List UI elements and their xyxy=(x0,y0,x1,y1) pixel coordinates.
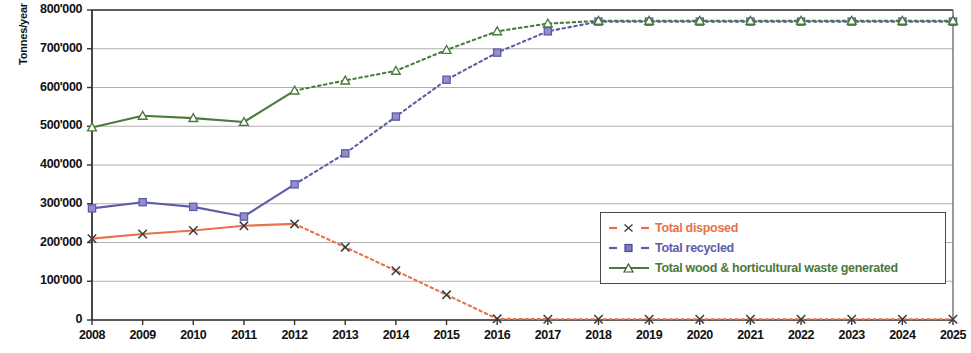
data-point-marker xyxy=(291,181,298,188)
legend-key-total-disposed xyxy=(607,221,651,235)
data-point-marker xyxy=(342,150,349,157)
chart-legend: Total disposed Total recycled Total wood… xyxy=(600,212,946,284)
data-point-marker xyxy=(190,203,197,210)
data-point-marker xyxy=(442,291,450,299)
legend-item-total-recycled[interactable]: Total recycled xyxy=(607,238,939,258)
legend-key-total-generated xyxy=(607,261,651,275)
data-point-marker xyxy=(391,66,400,74)
legend-item-total-generated[interactable]: Total wood & horticultural waste generat… xyxy=(607,258,939,278)
data-point-marker xyxy=(392,267,400,275)
data-point-marker xyxy=(341,243,349,251)
data-point-marker xyxy=(443,76,450,83)
data-point-marker xyxy=(392,113,399,120)
legend-label-total-generated: Total wood & horticultural waste generat… xyxy=(655,261,898,275)
legend-item-total-disposed[interactable]: Total disposed xyxy=(607,218,939,238)
legend-label-total-disposed: Total disposed xyxy=(655,221,738,235)
data-point-marker xyxy=(494,49,501,56)
data-point-marker xyxy=(442,46,451,54)
data-point-marker xyxy=(88,205,95,212)
data-point-marker xyxy=(139,199,146,206)
series-line-2 xyxy=(295,21,953,91)
data-point-marker xyxy=(544,28,551,35)
waste-projection-chart: Tonnes/year 0100'000200'000300'000400'00… xyxy=(0,0,971,353)
plot-area xyxy=(0,0,971,353)
legend-label-total-recycled: Total recycled xyxy=(655,241,734,255)
series-line-1 xyxy=(92,184,295,216)
series-line-1 xyxy=(295,22,953,185)
data-point-marker xyxy=(240,213,247,220)
legend-key-total-recycled xyxy=(607,241,651,255)
